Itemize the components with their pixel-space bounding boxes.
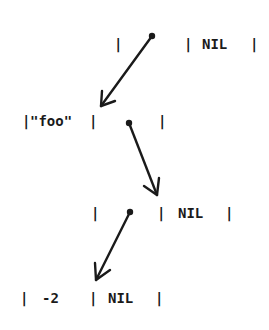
- arrow-cell2-to-cell3: [126, 120, 159, 195]
- arrow-cell1-to-cell2: [101, 33, 155, 106]
- pointer-arrows: [0, 0, 269, 330]
- cons-cell-diagram: | | NIL | | "foo" | | | | NIL | | -2 | N…: [0, 0, 269, 330]
- arrow-cell3-to-cell4: [95, 209, 133, 280]
